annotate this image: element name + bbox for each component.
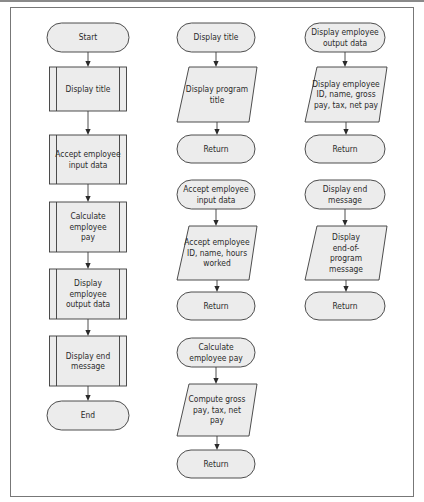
edge-sub-display-end-to-display-end-of-program — [342, 209, 347, 226]
node-end: End — [47, 401, 129, 430]
node-compute-gross-tax-net: Compute grosspay, tax, netpay — [177, 384, 257, 436]
node-display-id-name-gross: Display employeeID, name, grosspay, tax,… — [305, 67, 387, 122]
edge-display-id-name-gross-to-return-4 — [343, 122, 348, 135]
caption-rule — [0, 0, 424, 2]
node-label-line: employee — [69, 222, 107, 232]
node-label-line: Return — [204, 459, 229, 469]
node-label-line: Display — [332, 232, 360, 242]
node-label-line: end-of- — [333, 243, 360, 253]
edge-main-calculate-pay-to-main-display-output — [85, 252, 90, 269]
edge-sub-display-output-to-display-id-name-gross — [342, 52, 347, 67]
node-label-line: Return — [333, 301, 358, 311]
node-label-line: message — [329, 264, 363, 274]
node-display-end-of-program: Displayend-of-programmessage — [305, 226, 387, 280]
node-label-line: Accept employee — [184, 237, 250, 247]
node-main-display-output: Displayemployeeoutput data — [50, 269, 127, 319]
arrowhead-icon — [342, 220, 347, 226]
node-label-line: employee — [69, 289, 107, 299]
arrowhead-icon — [85, 263, 90, 269]
node-label-line: output data — [66, 299, 110, 309]
edge-main-display-title-to-main-accept-input — [85, 111, 90, 135]
edge-accept-id-name-hours-to-return-2 — [214, 280, 219, 292]
arrowhead-icon — [85, 196, 90, 202]
arrowhead-icon — [342, 61, 347, 67]
node-label-line: Display employee — [312, 79, 380, 89]
node-label-line: worked — [203, 258, 231, 268]
arrowhead-icon — [214, 129, 219, 135]
node-label-line: Calculate — [70, 211, 106, 221]
node-label-line: ID, name, hours — [187, 248, 247, 258]
node-label-line: Accept employee — [183, 184, 249, 194]
node-label-line: Start — [79, 32, 97, 42]
node-label-line: title — [210, 95, 225, 105]
node-label-line: pay — [210, 415, 224, 425]
node-label-line: input data — [197, 195, 236, 205]
node-label-line: Return — [204, 301, 229, 311]
edge-main-accept-input-to-main-calculate-pay — [85, 184, 90, 202]
node-return-5: Return — [305, 292, 385, 320]
node-sub-accept-input: Accept employeeinput data — [177, 180, 255, 209]
node-label-line: ID, name, gross — [316, 89, 375, 99]
node-display-program-title: Display programtitle — [177, 67, 257, 122]
arrowhead-icon — [343, 129, 348, 135]
node-sub-display-title: Display title — [177, 23, 255, 52]
node-main-accept-input: Accept employeeinput data — [50, 135, 127, 184]
node-label-line: Return — [333, 144, 358, 154]
arrowhead-icon — [214, 286, 219, 292]
node-label-line: Display title — [194, 32, 239, 42]
node-return-2: Return — [177, 292, 255, 320]
node-label-line: End — [81, 410, 96, 420]
node-label-line: Display program — [186, 84, 248, 94]
edge-sub-calculate-pay-to-compute-gross-tax-net — [213, 367, 218, 384]
edge-sub-accept-input-to-accept-id-name-hours — [213, 209, 218, 226]
arrowhead-icon — [213, 61, 218, 67]
arrowhead-icon — [213, 378, 218, 384]
edge-start-to-main-display-title — [85, 52, 90, 67]
node-sub-calculate-pay: Calculateemployee pay — [177, 338, 255, 367]
node-sub-display-output: Display employeeoutput data — [305, 23, 385, 52]
node-accept-id-name-hours: Accept employeeID, name, hoursworked — [177, 226, 257, 280]
nodes-layer: StartDisplay titleAccept employeeinput d… — [47, 23, 387, 478]
edge-main-display-output-to-main-display-end — [85, 319, 90, 336]
node-label-line: Display title — [66, 84, 111, 94]
arrowhead-icon — [85, 61, 90, 67]
node-label-line: Display end — [323, 184, 368, 194]
node-label-line: pay, tax, net — [193, 405, 241, 415]
node-return-3: Return — [177, 450, 255, 478]
arrowhead-icon — [85, 395, 90, 401]
node-label-line: Display end — [66, 351, 111, 361]
node-label-line: Compute gross — [189, 394, 246, 404]
node-return-4: Return — [305, 135, 385, 163]
node-label-line: pay, tax, net pay — [314, 100, 379, 110]
node-label-line: Accept employee — [55, 149, 121, 159]
arrowhead-icon — [214, 444, 219, 450]
edge-sub-display-title-to-display-program-title — [213, 52, 218, 67]
node-sub-display-end: Display endmessage — [305, 180, 385, 209]
edge-display-program-title-to-return-1 — [214, 122, 219, 135]
node-label-line: input data — [69, 160, 108, 170]
node-label-line: output data — [323, 38, 367, 48]
node-label-line: program — [330, 253, 362, 263]
edge-display-end-of-program-to-return-5 — [343, 280, 348, 292]
node-label-line: employee pay — [189, 353, 243, 363]
edge-compute-gross-tax-net-to-return-3 — [214, 436, 219, 450]
node-label-line: Display employee — [311, 27, 379, 37]
arrowhead-icon — [85, 330, 90, 336]
node-label-line: message — [71, 361, 105, 371]
node-start: Start — [47, 23, 129, 52]
arrowhead-icon — [343, 286, 348, 292]
node-return-1: Return — [177, 135, 255, 163]
node-label-line: message — [328, 195, 362, 205]
node-label-line: Return — [204, 144, 229, 154]
node-main-display-end: Display endmessage — [50, 336, 127, 386]
arrowhead-icon — [85, 129, 90, 135]
node-main-calculate-pay: Calculateemployeepay — [50, 202, 127, 252]
edge-main-display-end-to-end — [85, 386, 90, 401]
node-label-line: Calculate — [198, 342, 234, 352]
flowchart-figure: StartDisplay titleAccept employeeinput d… — [0, 0, 424, 502]
arrowhead-icon — [213, 220, 218, 226]
node-main-display-title: Display title — [50, 67, 127, 111]
node-label-line: Display — [74, 278, 102, 288]
node-label-line: pay — [81, 232, 95, 242]
